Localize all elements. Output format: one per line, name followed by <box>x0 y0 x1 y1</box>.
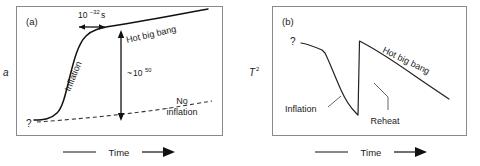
duration-base: 10 <box>78 10 88 20</box>
panel-b-tag: (b) <box>282 16 294 27</box>
panel-b-temperature-curve <box>301 41 449 115</box>
panel-b-y-axis-label-group: T 2 <box>249 66 259 78</box>
panel-b-label-reheat: Reheat <box>370 116 400 126</box>
panel-a-x-axis-label: Time <box>109 147 130 158</box>
panel-b-origin-marker: ? <box>290 36 296 47</box>
duration-unit: s <box>101 10 105 20</box>
panel-b-label-hot-big-bang: Hot big bang <box>381 45 431 76</box>
panel-a-growth-arrow <box>118 30 124 121</box>
panel-a-label-no-inflation-line1: No <box>176 96 188 106</box>
panel-a-tag: (a) <box>26 16 38 27</box>
panel-b-y-axis-exponent: 2 <box>256 66 259 72</box>
panel-a-duration-annotation: 10 –32 s <box>78 9 105 30</box>
panel-a-label-no-inflation-line2: inflation <box>166 107 197 117</box>
growth-prefix: ~ <box>127 68 132 78</box>
growth-exponent: 50 <box>145 67 151 73</box>
panel-b-x-axis: Time <box>315 147 427 158</box>
panel-b-time-arrowhead <box>415 147 427 157</box>
panel-b-y-axis-label: T <box>249 67 256 78</box>
cosmology-figure: (a) a 10 –32 s <box>0 0 480 166</box>
panel-a-time-arrowhead <box>163 147 175 157</box>
growth-base: 10 <box>133 68 143 78</box>
panel-a-growth-annotation: ~ 10 50 <box>127 67 151 79</box>
panel-a-label-hot-big-bang: Hot big bang <box>125 24 177 45</box>
panel-a-origin-marker: ? <box>26 118 32 129</box>
panel-a: (a) a 10 –32 s <box>3 7 223 159</box>
panel-b-x-axis-label: Time <box>361 147 382 158</box>
panel-b: (b) T 2 ? Inflation Reheat Hot big bang <box>249 7 467 159</box>
panel-b-reheat-annotation: Reheat <box>370 83 400 126</box>
duration-exponent: –32 <box>90 9 100 15</box>
figure-canvas: (a) a 10 –32 s <box>0 0 480 166</box>
panel-a-x-axis: Time <box>63 147 175 158</box>
panel-a-y-axis-label: a <box>3 67 9 78</box>
panel-b-inflation-annotation: Inflation <box>285 96 341 114</box>
panel-b-label-inflation: Inflation <box>285 104 317 114</box>
panel-a-label-inflation: Inflation <box>63 60 84 93</box>
